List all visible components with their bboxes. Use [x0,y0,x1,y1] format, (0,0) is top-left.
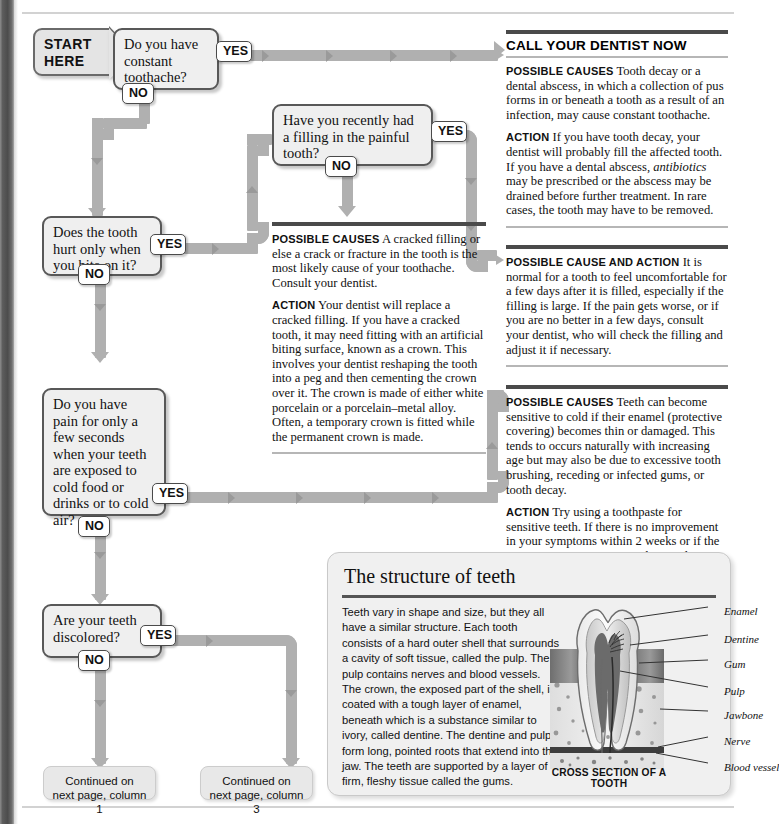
figure-label-blood-vessel: Blood vessel [724,761,779,773]
connector-q4-yes-v [487,400,498,480]
connector-q1-no-down [92,128,103,216]
connector-q5-no [95,658,106,764]
figure-label-jawbone: Jawbone [724,709,763,721]
answer-tag-yes-q4[interactable]: YES [152,483,188,504]
continuation-box-column3[interactable]: Continued on next page, column 3 [200,766,313,800]
advice-pointer-icon [496,50,504,60]
question-text: Are your teeth discolored? [53,612,151,645]
book-binding-edge [0,0,14,824]
question-box-cold-sensitivity[interactable]: Do you have pain for only a few seconds … [42,388,166,516]
section-rule-top [506,385,728,389]
advice-cracked-filling: POSSIBLE CAUSES A cracked filling or els… [272,222,486,454]
advice-title: CALL YOUR DENTIST NOW [506,38,728,53]
continuation-line2: next page, column 1 [48,788,151,816]
advice-paragraph-causes: POSSIBLE CAUSES Tooth decay or a dental … [506,64,728,122]
answer-tag-no-q2[interactable]: NO [325,156,357,177]
section-rule-top [506,245,728,249]
start-here-line1: START [44,36,109,53]
answer-tag-no-q1[interactable]: NO [122,83,154,104]
structure-panel-body: Teeth vary in shape and size, but they a… [342,605,560,790]
tooth-diagram-svg [538,597,720,787]
answer-tag-no-q3[interactable]: NO [78,264,110,285]
chevron-icon [326,50,333,62]
answer-tag-yes-q2[interactable]: YES [431,121,467,142]
chevron-icon [212,243,219,255]
page-top-rule [22,12,734,14]
arrowhead-q3-no [91,352,109,363]
advice-pointer-icon [496,255,504,265]
section-rule-under-title [506,56,728,58]
advice-paragraph-action: ACTION Your dentist will replace a crack… [272,298,486,444]
advice-label-possible-causes: POSSIBLE CAUSES [506,396,614,408]
connector-q3-yes-top [258,134,272,145]
section-rule-top [506,30,728,34]
continuation-line1: Continued on [205,774,308,788]
section-rule-top [272,222,486,226]
answer-tag-yes-q3[interactable]: YES [150,234,186,255]
figure-label-enamel: Enamel [724,605,758,617]
answer-tag-no-q5[interactable]: NO [78,650,110,671]
advice-call-your-dentist: CALL YOUR DENTIST NOW POSSIBLE CAUSES To… [506,30,728,228]
advice-sensitive-teeth: POSSIBLE CAUSES Teeth can become sensiti… [506,385,728,574]
advice-text-action-2: may be prescribed or the abscess may be … [506,174,713,217]
advice-text-action-italic: antibiotics [653,160,706,174]
answer-tag-yes-q1[interactable]: YES [216,41,252,62]
advice-text: It is normal for a tooth to feel uncomfo… [506,255,727,357]
advice-pointer-icon [496,395,504,405]
chevron-icon [486,442,498,449]
advice-label-possible-causes: POSSIBLE CAUSES [506,65,614,77]
chevron-icon [390,50,397,62]
structure-panel-title: The structure of teeth [344,565,716,588]
chevron-icon [246,186,258,193]
book-binding-shadow [14,0,18,824]
advice-paragraph-action: ACTION If you have tooth decay, your den… [506,130,728,218]
continuation-box-column1[interactable]: Continued on next page, column 1 [43,766,156,800]
section-rule-bottom [272,452,486,454]
chevron-icon [94,700,106,707]
advice-text-causes: Teeth can become sensitive to cold if th… [506,395,722,497]
continuation-line1: Continued on [48,774,151,788]
figure-label-nerve: Nerve [724,735,750,747]
connector-q5-yes-v [286,646,297,764]
chevron-icon [285,690,297,697]
advice-text-action: Your dentist will replace a cracked fill… [272,298,483,443]
chevron-icon [228,492,235,504]
section-rule-bottom [506,365,728,367]
start-here-badge: START HERE [33,28,111,76]
advice-label-possible-causes: POSSIBLE CAUSES [272,233,380,245]
question-box-constant-toothache[interactable]: Do you have constant toothache? [113,28,219,90]
chevron-icon [206,635,213,647]
question-text: Have you recently had a filling in the p… [283,112,422,162]
question-text: Do you have constant toothache? [124,36,208,86]
continuation-line2: next page, column 3 [205,788,308,816]
connector-q5-yes-h [168,635,286,646]
chevron-icon [94,552,106,559]
advice-after-filling: POSSIBLE CAUSE AND ACTION It is normal f… [506,245,728,367]
answer-tag-yes-q5[interactable]: YES [140,625,176,646]
figure-label-dentine: Dentine [724,633,759,645]
advice-paragraph-causes: POSSIBLE CAUSES Teeth can become sensiti… [506,395,728,497]
section-rule-bottom [506,226,728,228]
chevron-icon [432,492,439,504]
structure-of-teeth-panel: The structure of teeth Teeth vary in sha… [327,552,731,796]
advice-paragraph: POSSIBLE CAUSE AND ACTION It is normal f… [506,255,728,357]
chevron-icon [450,50,457,62]
advice-label-action: ACTION [506,131,549,143]
question-text: Do you have pain for only a few seconds … [53,396,155,528]
chevron-icon [296,492,303,504]
chevron-icon [94,304,106,311]
answer-tag-no-q4[interactable]: NO [78,516,110,537]
advice-label-action: ACTION [272,299,315,311]
figure-label-gum: Gum [724,658,745,670]
advice-paragraph-causes: POSSIBLE CAUSES A cracked filling or els… [272,232,486,290]
advice-label-possible-cause-and-action: POSSIBLE CAUSE AND ACTION [506,256,679,268]
tooth-cross-section-figure [538,597,720,787]
advice-label-action: ACTION [506,506,549,518]
start-here-line2: HERE [44,53,109,70]
arrowhead-q2-no [338,206,356,217]
chevron-icon [91,158,103,165]
chevron-icon [262,50,269,62]
chevron-icon [465,178,477,185]
figure-caption: CROSS SECTION OF A TOOTH [534,767,684,789]
